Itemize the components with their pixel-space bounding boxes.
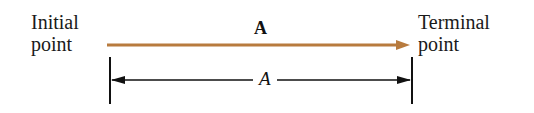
vector-label: A bbox=[254, 18, 267, 39]
dimension-arrowhead-left bbox=[111, 76, 125, 84]
initial-label-line1: Initial bbox=[31, 11, 79, 33]
initial-label-line2: point bbox=[31, 33, 79, 55]
vector-arrowhead bbox=[396, 40, 410, 50]
magnitude-label: A bbox=[253, 68, 277, 90]
terminal-point-label: Terminal point bbox=[418, 11, 490, 55]
initial-point-label: Initial point bbox=[31, 11, 79, 55]
terminal-label-line1: Terminal bbox=[418, 11, 490, 33]
dimension-arrowhead-right bbox=[397, 76, 411, 84]
terminal-label-line2: point bbox=[418, 33, 490, 55]
